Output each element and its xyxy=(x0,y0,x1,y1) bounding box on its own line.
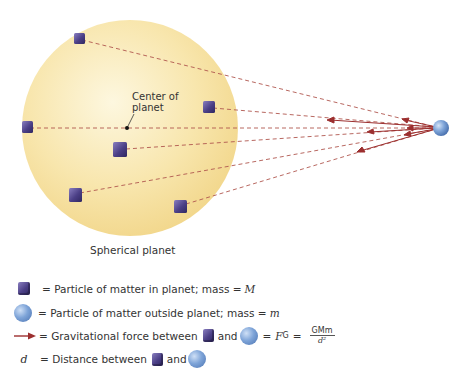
particle-cube xyxy=(69,188,82,202)
particle-cube xyxy=(174,200,187,213)
legend-sphere-text: = Particle of matter outside planet; mas… xyxy=(38,307,267,319)
legend-cube-var: M xyxy=(245,283,256,295)
legend-row-cube: = Particle of matter in planet; mass = M xyxy=(14,282,255,295)
cube-icon xyxy=(18,282,30,295)
legend-force-equals2: = xyxy=(293,330,302,342)
legend-distance-text: = Distance between xyxy=(40,353,147,365)
legend-distance-and: and xyxy=(167,353,187,365)
legend-row-force: = Gravitational force between and = FG =… xyxy=(14,326,335,345)
particle-cube xyxy=(203,101,215,113)
distance-symbol: d xyxy=(14,353,34,366)
planet-label: Spherical planet xyxy=(90,244,175,256)
center-label-line2: planet xyxy=(132,102,178,113)
cube-icon xyxy=(152,353,163,366)
force-symbol: F xyxy=(275,330,282,342)
sphere-icon xyxy=(14,304,32,322)
legend-force-equals: = xyxy=(262,330,271,342)
legend-force-text: = Gravitational force between xyxy=(39,330,198,342)
particle-cube xyxy=(74,33,85,44)
legend-row-sphere: = Particle of matter outside planet; mas… xyxy=(14,304,280,322)
force-arrow-icon xyxy=(14,331,36,341)
center-label-line1: Center of xyxy=(132,91,178,102)
center-of-planet-label: Center of planet xyxy=(132,91,178,113)
force-subscript: G xyxy=(283,331,289,340)
legend-sphere-var: m xyxy=(270,307,280,319)
legend-cube-text: = Particle of matter in planet; mass = xyxy=(42,283,242,295)
cube-icon xyxy=(203,329,214,342)
legend-row-distance: d = Distance between and xyxy=(14,350,206,368)
particle-cube xyxy=(113,142,127,157)
sphere-icon xyxy=(240,327,258,345)
particle-cube xyxy=(22,121,33,133)
sphere-icon xyxy=(188,350,206,368)
center-point xyxy=(125,126,129,130)
formula-denominator: d² xyxy=(318,336,326,345)
external-particle-sphere xyxy=(433,120,449,136)
formula-numerator: GMm xyxy=(310,326,335,336)
force-formula: GMm d² xyxy=(310,326,335,345)
legend-force-and: and xyxy=(218,330,238,342)
